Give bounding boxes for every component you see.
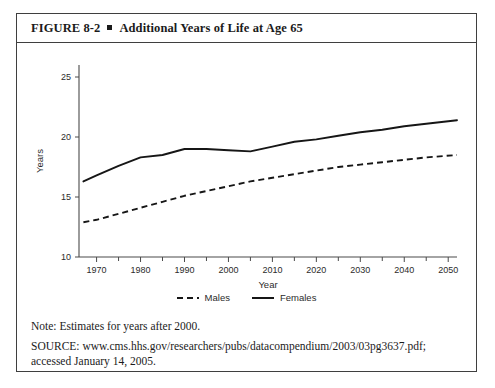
y-tick-label: 15 — [61, 192, 71, 202]
legend-swatch-dashed-icon — [177, 297, 199, 299]
x-tick-label: 1990 — [174, 265, 194, 275]
y-tick-label: 25 — [61, 72, 71, 82]
figure-footnotes: Note: Estimates for years after 2000. SO… — [31, 319, 462, 369]
x-tick-label: 1980 — [131, 265, 151, 275]
square-bullet-icon — [107, 25, 112, 30]
x-tick-label: 2020 — [306, 265, 326, 275]
note-text: Note: Estimates for years after 2000. — [31, 319, 462, 334]
legend-swatch-solid-icon — [252, 297, 274, 299]
legend-item-males: Males — [177, 292, 230, 303]
legend-item-females: Females — [252, 292, 316, 303]
series-line-males — [83, 155, 457, 222]
x-tick-label: 2050 — [438, 265, 458, 275]
x-tick-label: 2040 — [394, 265, 414, 275]
legend-label-females: Females — [280, 292, 316, 303]
legend-label-males: Males — [205, 292, 230, 303]
x-axis-ticks: 197019801990200020102020203020402050 — [87, 257, 459, 275]
figure-box: FIGURE 8-2 Additional Years of Life at A… — [16, 13, 477, 372]
series-line-females — [83, 120, 457, 181]
figure-number: FIGURE 8-2 — [31, 21, 100, 36]
x-tick-label: 2000 — [218, 265, 238, 275]
y-tick-label: 10 — [61, 252, 71, 262]
line-chart: 10152025 1970198019902000201020202030204… — [17, 43, 475, 305]
figure-title: Additional Years of Life at Age 65 — [119, 21, 302, 36]
x-axis-title: Year — [258, 279, 277, 290]
y-axis-title: Years — [34, 149, 45, 173]
y-axis-ticks: 10152025 — [61, 72, 79, 262]
source-text-line2: accessed January 14, 2005. — [31, 354, 462, 369]
figure-header: FIGURE 8-2 Additional Years of Life at A… — [17, 14, 476, 43]
plot-area: 10152025 1970198019902000201020202030204… — [17, 43, 476, 305]
source-text-line1: SOURCE: www.cms.hhs.gov/researchers/pubs… — [31, 339, 462, 354]
x-tick-label: 2010 — [262, 265, 282, 275]
x-tick-label: 2030 — [350, 265, 370, 275]
chart-legend: Males Females — [17, 292, 476, 303]
x-tick-label: 1970 — [87, 265, 107, 275]
y-tick-label: 20 — [61, 132, 71, 142]
